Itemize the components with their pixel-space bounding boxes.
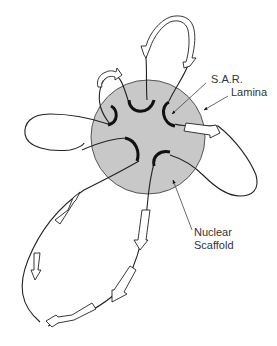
gene-arrow-bl-2 (31, 253, 41, 280)
nuclear-scaffold-label-line2: Scaffold (194, 239, 234, 252)
nuclear-scaffold-label-line1: Nuclear (194, 226, 232, 239)
gene-arrow-bl-1 (55, 192, 80, 224)
chromatin-loop-diagram (0, 0, 277, 346)
scaffold-leader-line (173, 180, 192, 230)
gene-arrow-bl-5 (112, 266, 136, 302)
gene-arrow-upper-left (97, 68, 122, 87)
lamina-leader-line (204, 96, 228, 110)
sar-label: S.A.R. (211, 73, 243, 86)
gene-arrow-bl-4 (134, 210, 150, 250)
lamina-label: Lamina (231, 86, 267, 99)
gene-arrow-bl-3 (46, 303, 96, 327)
nuclear-scaffold-disk (91, 80, 205, 194)
gene-arrow-top (141, 16, 196, 68)
